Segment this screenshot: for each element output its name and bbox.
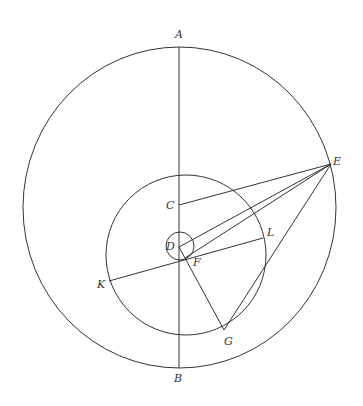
label-E: E (332, 155, 341, 168)
label-K: K (96, 278, 106, 291)
label-A: A (174, 28, 183, 41)
label-D: D (165, 240, 175, 253)
label-F: F (192, 256, 201, 269)
inner-circle (106, 175, 266, 335)
label-C: C (166, 199, 175, 212)
geometry-diagram: A B C D E F G K L (0, 0, 363, 406)
label-B: B (173, 372, 182, 385)
label-L: L (266, 226, 274, 239)
line-DG (179, 247, 224, 330)
label-G: G (224, 335, 233, 348)
